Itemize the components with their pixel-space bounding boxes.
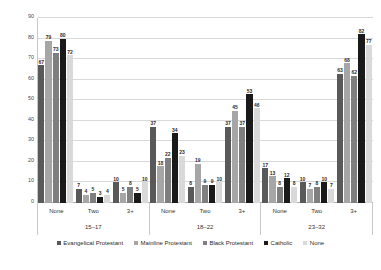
bar[interactable]: 4 [104,195,110,203]
bar-slot: 7 [76,18,82,203]
bar-slot: 7 [307,18,313,203]
bar-slot: 37 [239,18,245,203]
bar-slot: 10 [300,18,306,203]
bar[interactable]: 34 [172,133,178,203]
legend-item[interactable]: None [303,240,324,246]
bar[interactable]: 5 [134,193,140,203]
bar-slot: 19 [195,18,201,203]
bar-value-label: 53 [247,89,253,94]
bar[interactable]: 17 [262,168,268,203]
bar-slot: 17 [262,18,268,203]
legend-swatch-icon [303,241,307,245]
bar-value-label: 5 [136,187,139,192]
bar-slot: 8 [127,18,133,203]
bar[interactable]: 9 [202,185,208,204]
bar[interactable]: 63 [337,74,343,204]
legend-swatch-icon [57,241,61,245]
legend-item[interactable]: Mainline Protestant [134,240,192,246]
bar[interactable]: 8 [188,187,194,203]
bar[interactable]: 77 [366,45,372,203]
legend-swatch-icon [264,241,268,245]
bar[interactable]: 5 [120,193,126,203]
bar[interactable]: 10 [321,182,327,203]
bar[interactable]: 8 [291,187,297,203]
bar[interactable]: 19 [195,164,201,203]
bar-value-label: 5 [122,187,125,192]
legend-item[interactable]: Catholic [264,240,292,246]
bar[interactable]: 4 [83,195,89,203]
bar-value-label: 72 [67,50,73,55]
bar[interactable]: 37 [225,127,231,203]
bar[interactable]: 53 [246,94,252,203]
bar-value-label: 7 [77,183,80,188]
bar-slot: 67 [38,18,44,203]
bar-value-label: 17 [263,163,269,168]
bar-slot: 46 [254,18,260,203]
bar[interactable]: 73 [53,53,59,203]
y-axis-tick-label: 20 [28,158,34,163]
category-axis-label: None [261,203,298,219]
bar-value-label: 45 [232,105,238,110]
bar[interactable]: 10 [216,182,222,203]
y-axis-tick-label: 10 [28,179,34,184]
bar[interactable]: 9 [209,185,215,204]
age-group-bars: 371822342381999103745375346 [149,18,261,203]
bar-value-label: 8 [189,181,192,186]
bar[interactable]: 80 [60,39,66,203]
bar[interactable]: 46 [254,108,260,203]
bar-slot: 34 [172,18,178,203]
bar-slot: 9 [202,18,208,203]
bar[interactable]: 10 [300,182,306,203]
bar[interactable]: 45 [232,111,238,204]
bar-value-label: 10 [142,177,148,182]
bar[interactable]: 12 [284,178,290,203]
bar[interactable]: 23 [179,156,185,203]
bar[interactable]: 13 [269,176,275,203]
bar-slot: 77 [366,18,372,203]
bar[interactable]: 37 [239,127,245,203]
bar-value-label: 80 [60,33,66,38]
category-bar-cluster: 6779738072 [37,18,74,203]
category-bar-cluster: 74534 [74,18,111,203]
bar-slot: 5 [90,18,96,203]
bar[interactable]: 10 [142,182,148,203]
bar[interactable]: 8 [314,187,320,203]
bar[interactable]: 67 [38,65,44,203]
bar-slot: 5 [134,18,140,203]
category-bar-cluster: 1078107 [298,18,335,203]
bar[interactable]: 18 [157,166,163,203]
bar-value-label: 8 [293,181,296,186]
bar[interactable]: 37 [150,127,156,203]
bar[interactable]: 72 [67,55,73,203]
bar[interactable]: 10 [113,182,119,203]
bar-slot: 23 [179,18,185,203]
bar-value-label: 18 [158,161,164,166]
bar-slot: 8 [291,18,297,203]
bar-slot: 53 [246,18,252,203]
bar-slot: 68 [344,18,350,203]
bar-value-label: 79 [46,35,52,40]
legend-item[interactable]: Black Protestant [203,240,253,246]
bar[interactable]: 7 [76,189,82,203]
age-group-axis-label: 23–32 [261,219,372,235]
bar[interactable]: 8 [277,187,283,203]
bar[interactable]: 8 [127,187,133,203]
bar-slot: 80 [60,18,66,203]
bar-slot: 10 [216,18,222,203]
legend-label: None [310,240,324,246]
age-group-axis-cell: NoneTwo3+23–32 [260,203,373,235]
category-axis-label: Two [298,203,335,219]
bar[interactable]: 82 [358,34,364,203]
bar[interactable]: 7 [307,189,313,203]
bar[interactable]: 7 [328,189,334,203]
bar-slot: 37 [225,18,231,203]
bar-value-label: 7 [308,183,311,188]
bar-slot: 37 [150,18,156,203]
bar[interactable]: 62 [351,76,357,203]
bar[interactable]: 68 [344,63,350,203]
legend-item[interactable]: Evangelical Protestant [57,240,123,246]
bar[interactable]: 79 [45,41,51,203]
bar[interactable]: 22 [165,158,171,203]
bar[interactable]: 5 [90,193,96,203]
category-bar-cluster: 17138128 [261,18,298,203]
